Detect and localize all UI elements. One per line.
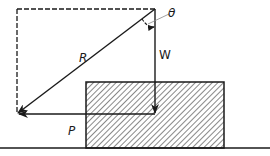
angle-leader-line bbox=[148, 14, 169, 24]
label-resultant: R bbox=[79, 51, 87, 65]
diagram-canvas: R θ W P bbox=[0, 0, 270, 156]
label-push: P bbox=[68, 124, 76, 138]
angle-arc bbox=[142, 19, 154, 27]
force-diagram: R θ W P bbox=[0, 0, 270, 156]
label-weight: W bbox=[159, 48, 171, 62]
label-angle: θ bbox=[168, 6, 176, 20]
